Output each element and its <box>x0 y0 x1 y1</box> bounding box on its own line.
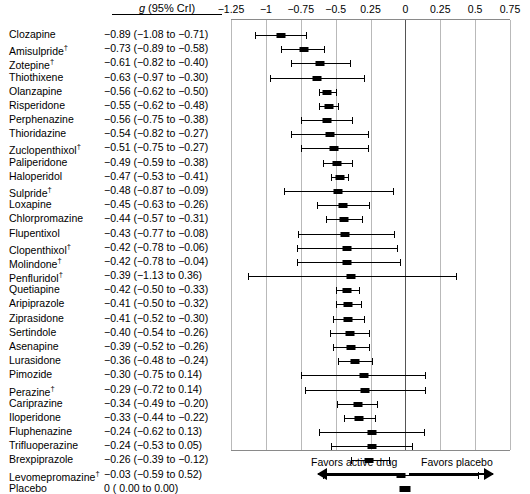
gridline <box>475 20 476 450</box>
point-estimate-marker <box>335 175 344 180</box>
effect-value: −0.44 (−0.57 to −0.31) <box>104 212 230 224</box>
confidence-interval-cap <box>375 415 376 422</box>
confidence-interval-cap <box>319 89 320 96</box>
confidence-interval-cap <box>331 443 332 450</box>
drug-label: Risperidone <box>9 99 65 111</box>
confidence-interval-cap <box>362 216 363 223</box>
confidence-interval-cap <box>306 32 307 39</box>
gridline <box>371 20 372 450</box>
effect-value: −0.48 (−0.87 to −0.09) <box>104 184 230 196</box>
left-arrow-icon <box>318 468 402 480</box>
point-estimate-marker <box>324 104 333 109</box>
dagger-footnote-marker: † <box>57 256 61 265</box>
confidence-interval-cap <box>319 429 320 436</box>
drug-label: Chlorpromazine <box>9 212 83 224</box>
point-estimate-marker <box>342 260 351 265</box>
value-column-header: g (95% CrI) <box>112 2 222 15</box>
effect-value: −0.34 (−0.49 to −0.20) <box>104 397 230 409</box>
confidence-interval-cap <box>297 245 298 252</box>
point-estimate-marker <box>342 288 351 293</box>
effect-value: −0.39 (−0.52 to −0.26) <box>104 340 230 352</box>
drug-label: Zuclopenthixol† <box>9 141 81 156</box>
drug-label: Trifluoperazine <box>9 439 78 451</box>
point-estimate-marker <box>299 47 308 52</box>
confidence-interval-cap <box>317 202 318 209</box>
favors-placebo-label: Favors placebo <box>421 456 493 468</box>
confidence-interval-cap <box>336 301 337 308</box>
confidence-interval-cap <box>424 429 425 436</box>
point-estimate-marker <box>367 430 376 435</box>
effect-value: −0.42 (−0.78 to −0.06) <box>104 241 230 253</box>
confidence-interval-cap <box>394 231 395 238</box>
confidence-interval-cap <box>377 401 378 408</box>
drug-label: Thioridazine <box>9 127 66 139</box>
zero-reference-line <box>405 20 406 450</box>
point-estimate-marker <box>355 416 364 421</box>
effect-value: −0.56 (−0.75 to −0.38) <box>104 113 230 125</box>
drug-label: Pimozide <box>9 368 52 380</box>
drug-label: Levomepromazine† <box>9 468 100 483</box>
drug-label: Placebo <box>9 482 47 494</box>
effect-value: −0.47 (−0.53 to −0.41) <box>104 170 230 182</box>
drug-label: Aripiprazole <box>9 297 64 309</box>
confidence-interval-cap <box>284 188 285 195</box>
confidence-interval-cap <box>255 32 256 39</box>
x-axis-tick-label: 0.75 <box>500 4 520 15</box>
confidence-interval-cap <box>333 344 334 351</box>
confidence-interval-cap <box>397 245 398 252</box>
point-estimate-marker <box>333 161 342 166</box>
confidence-interval-cap <box>330 330 331 337</box>
right-arrow-icon <box>409 468 493 480</box>
drug-label: Perazine† <box>9 383 55 398</box>
x-axis-tick-label: 0.25 <box>360 4 380 15</box>
effect-value: −0.42 (−0.50 to −0.33) <box>104 283 230 295</box>
point-estimate-marker <box>330 146 339 151</box>
drug-label: Clozapine <box>9 28 56 40</box>
effect-value: −0.03 (−0.59 to 0.52) <box>104 468 230 480</box>
point-estimate-marker <box>344 317 353 322</box>
confidence-interval-cap <box>305 387 306 394</box>
confidence-interval-cap <box>361 301 362 308</box>
confidence-interval-cap <box>291 60 292 67</box>
drug-label: Fluphenazine <box>9 425 72 437</box>
drug-label: Lurasidone <box>9 354 61 366</box>
favors-active-drug-label: Favors active drug <box>311 456 397 468</box>
dagger-footnote-marker: † <box>64 43 68 52</box>
confidence-interval-cap <box>319 103 320 110</box>
dagger-footnote-marker: † <box>95 469 99 478</box>
drug-label: Perphenazine <box>9 113 74 125</box>
point-estimate-marker <box>323 90 332 95</box>
confidence-interval-cap <box>456 273 457 280</box>
effect-value: −0.36 (−0.48 to −0.24) <box>104 354 230 366</box>
drug-label: Ziprasidone <box>9 312 64 324</box>
confidence-interval-cap <box>368 131 369 138</box>
point-estimate-marker <box>339 217 348 222</box>
drug-label: Sertindole <box>9 326 56 338</box>
confidence-interval-cap <box>352 117 353 124</box>
confidence-interval-cap <box>369 344 370 351</box>
confidence-interval-cap <box>291 131 292 138</box>
effect-value: −0.49 (−0.59 to −0.38) <box>104 156 230 168</box>
confidence-interval-cap <box>298 231 299 238</box>
x-axis-tick-label: 0 <box>402 4 408 15</box>
dagger-footnote-marker: † <box>77 142 81 151</box>
confidence-interval-cap <box>369 330 370 337</box>
point-estimate-marker <box>338 203 347 208</box>
confidence-interval-cap <box>369 202 370 209</box>
confidence-interval-cap <box>352 160 353 167</box>
effect-value: 0 ( 0.00 to 0.00) <box>104 482 230 494</box>
confidence-interval-cap <box>364 75 365 82</box>
x-axis-tick-label: −0.75 <box>287 4 314 15</box>
effect-value: −0.24 (−0.53 to 0.05) <box>104 439 230 451</box>
drug-label: Penfluridol† <box>9 269 63 284</box>
point-estimate-marker <box>326 132 335 137</box>
x-axis-tick-label: 0.5 <box>468 4 483 15</box>
confidence-interval-cap <box>372 358 373 365</box>
confidence-interval-cap <box>323 160 324 167</box>
drug-label: Olanzapine <box>9 85 62 97</box>
confidence-interval-cap <box>297 259 298 266</box>
gridline <box>440 20 441 450</box>
dagger-footnote-marker: † <box>50 384 54 393</box>
point-estimate-marker <box>346 274 355 279</box>
